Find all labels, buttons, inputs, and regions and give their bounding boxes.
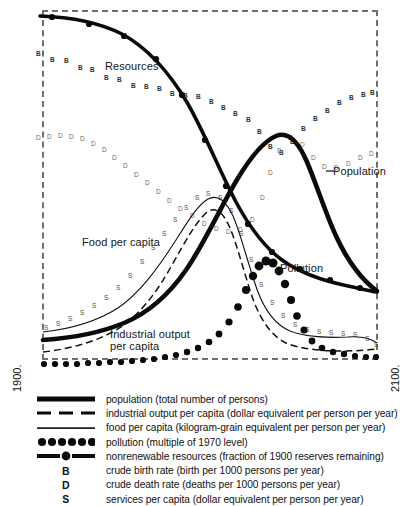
dotted-circles-icon [34,435,98,449]
annotation-industrial-line1: Industrial output [110,328,190,340]
line-with-dot-icon [34,449,98,463]
svg-text:D: D [123,162,128,169]
svg-text:S: S [206,190,211,197]
svg-text:S: S [56,320,61,327]
svg-text:B: B [36,50,41,57]
legend-label-population: population (total number of persons) [98,394,268,405]
svg-text:B: B [246,116,251,123]
svg-text:B: B [157,85,162,92]
svg-text:S: S [184,204,189,211]
svg-text:D: D [214,225,219,232]
svg-text:D: D [226,228,231,235]
svg-text:S: S [116,284,121,291]
x-axis-start-year-label: 1900. [11,364,23,392]
svg-text:B: B [209,98,214,105]
svg-text:D: D [268,169,273,176]
svg-text:S: S [329,329,334,336]
svg-text:B: B [325,107,330,114]
svg-text:S: S [281,312,286,319]
svg-text:B: B [50,56,55,63]
svg-text:D: D [80,135,85,142]
svg-text:B: B [313,115,318,122]
chart-plot-area: BBB BBB BBB BBB BBB BBB BBB BBB BBB B DD… [0,0,403,382]
svg-text:B: B [337,99,342,106]
legend-item-pollution: pollution (multiple of 1970 level) [34,435,396,449]
chart-curves-svg: BBB BBB BBB BBB BBB BBB BBB BBB BBB B DD… [0,0,403,382]
svg-text:D: D [156,188,161,195]
svg-text:D: D [178,205,183,212]
letter-b-marker-icon: B [34,465,98,477]
svg-text:B: B [170,90,175,97]
svg-text:B: B [131,82,136,89]
svg-text:B: B [144,83,149,90]
svg-text:S: S [80,309,85,316]
svg-text:B: B [196,93,201,100]
legend-item-industrial-output: industrial output per capita (dollar equ… [34,406,396,420]
svg-text:S: S [173,216,178,223]
svg-text:D: D [36,134,41,141]
thin-solid-line-icon [34,421,98,435]
svg-text:D: D [369,150,374,157]
svg-text:S: S [270,299,275,306]
svg-text:S: S [68,315,73,322]
legend-label-food-per-capita: food per capita (kilogram-grain equivale… [98,422,385,433]
svg-text:B: B [233,110,238,117]
thick-solid-line-icon [34,392,98,406]
annotation-population: Population [333,165,386,177]
legend-label-industrial-output: industrial output per capita (dollar equ… [98,408,398,419]
annotation-pollution: Pollution [280,262,323,274]
svg-text:B: B [370,89,375,96]
chart-legend: population (total number of persons) ind… [34,392,396,506]
legend-item-crude-death-rate: D crude death rate (deaths per 1000 pers… [34,478,396,492]
svg-text:S: S [249,256,254,263]
annotation-industrial-line2: per capita [110,340,159,352]
svg-text:B: B [268,143,273,150]
svg-text:D: D [260,194,265,201]
svg-text:D: D [311,154,316,161]
svg-text:S: S [104,294,109,301]
svg-text:D: D [358,154,363,161]
svg-text:D: D [91,140,96,147]
svg-text:S: S [317,328,322,335]
letter-s-marker-icon: S [34,493,98,505]
svg-text:B: B [90,66,95,73]
svg-text:S: S [162,230,167,237]
x-axis-end-year-label: 2100. [389,364,401,392]
annotation-food-per-capita: Food per capita [82,236,160,248]
legend-item-crude-birth-rate: B crude birth rate (birth per 1000 perso… [34,463,396,477]
svg-text:D: D [250,216,255,223]
svg-text:B: B [257,128,262,135]
svg-text:S: S [128,272,133,279]
legend-label-crude-death-rate: crude death rate (deaths per 1000 person… [98,479,340,490]
svg-text:B: B [349,94,354,101]
svg-text:S: S [293,321,298,328]
svg-text:D: D [145,179,150,186]
svg-text:S: S [44,324,49,331]
svg-text:B: B [361,91,366,98]
legend-label-crude-birth-rate: crude birth rate (birth per 1000 persons… [98,465,324,476]
legend-item-nonrenewable-resources: nonrenewable resources (fraction of 1900… [34,449,396,463]
svg-text:S: S [259,281,264,288]
svg-text:D: D [322,163,327,170]
legend-label-services-per-capita: services per capita (dollar equivalent p… [98,494,364,505]
annotation-resources: Resources [105,60,158,72]
svg-text:B: B [301,125,306,132]
series-resources-curve [40,16,377,292]
dashed-line-icon [34,406,98,420]
svg-text:D: D [167,197,172,204]
legend-item-food-per-capita: food per capita (kilogram-grain equivale… [34,421,396,435]
legend-item-services-per-capita: S services per capita (dollar equivalent… [34,492,396,506]
series-death-rate-markers: DDD DDD DDD DDD DDD DDD DDD DDD DDD DDD … [36,132,374,235]
legend-item-population: population (total number of persons) [34,392,396,406]
svg-text:D: D [202,220,207,227]
svg-text:S: S [341,330,346,337]
legend-label-nonrenewable-resources: nonrenewable resources (fraction of 1900… [98,451,384,462]
svg-text:D: D [277,147,282,154]
svg-text:D: D [47,133,52,140]
svg-text:B: B [64,57,69,64]
svg-text:D: D [102,146,107,153]
annotation-industrial-output: Industrial output per capita [110,328,190,353]
letter-d-marker-icon: D [34,479,98,491]
svg-text:S: S [92,302,97,309]
svg-text:D: D [134,171,139,178]
